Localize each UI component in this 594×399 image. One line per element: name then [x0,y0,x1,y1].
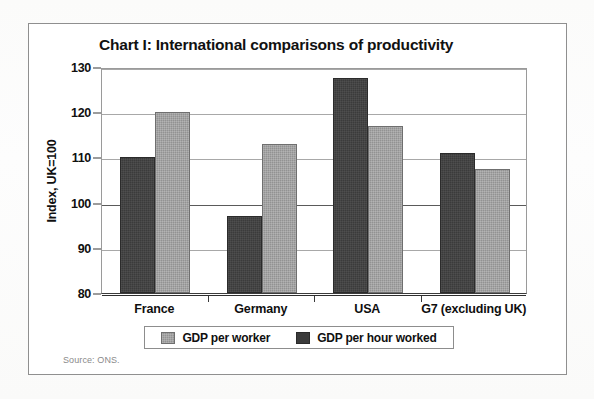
bar-gdp-per-worker-g7-excluding-uk [475,169,510,293]
x-tick-mark-1 [208,296,209,302]
y-tick-label-80: 80 [78,287,91,301]
x-label-usa: USA [354,302,380,316]
bar-gdp-per-worker-usa [368,126,403,293]
plot-region [101,68,527,294]
bar-gdp-per-hour-worked-france [120,157,155,293]
y-tick-label-90: 90 [78,242,91,256]
chart-title: Chart I: International comparisons of pr… [99,36,529,54]
y-tick-mark-120 [93,113,101,114]
bar-gdp-per-hour-worked-g7-excluding-uk [440,153,475,293]
x-axis: FranceGermanyUSAG7 (excluding UK) [101,296,527,318]
x-label-france: France [134,302,174,316]
bar-gdp-per-hour-worked-germany [227,216,262,293]
plot-area [101,68,527,294]
y-tick-mark-80 [93,294,101,295]
legend-label-gdp-per-hour-worked: GDP per hour worked [317,331,436,345]
bar-gdp-per-worker-germany [262,144,297,293]
y-tick-label-120: 120 [71,106,91,120]
legend-item-gdp-per-worker: GDP per worker [161,331,270,345]
y-tick-label-110: 110 [72,151,91,165]
legend-item-gdp-per-hour-worked: GDP per hour worked [296,331,436,345]
source-note: Source: ONS. [63,355,120,365]
bar-gdp-per-hour-worked-usa [333,78,368,293]
y-axis: Index, UK=100 8090100110120130 [29,68,101,294]
bar-gdp-per-worker-france [155,112,190,293]
y-tick-label-100: 100 [71,197,91,211]
legend-swatch-dark-icon [296,332,310,344]
y-tick-mark-130 [93,68,101,69]
y-axis-title: Index, UK=100 [45,106,59,256]
y-tick-mark-110 [93,158,101,159]
figure-frame: Chart I: International comparisons of pr… [28,23,567,375]
legend-swatch-light-icon [161,332,175,344]
scanned-page: Chart I: International comparisons of pr… [0,0,594,399]
x-label-g7-excluding-uk: G7 (excluding UK) [421,302,526,316]
y-tick-mark-90 [93,248,101,249]
y-tick-mark-100 [93,203,101,204]
x-tick-mark-2 [314,296,315,302]
bar-group [102,69,526,293]
x-label-germany: Germany [234,302,287,316]
legend-label-gdp-per-worker: GDP per worker [182,331,270,345]
chart-legend: GDP per worker GDP per hour worked [144,326,454,349]
y-tick-label-130: 130 [71,61,91,75]
